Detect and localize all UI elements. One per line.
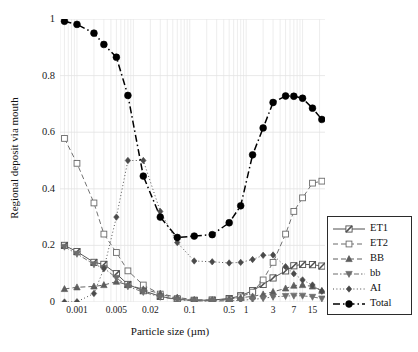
legend-item-BB[interactable]: BB (331, 251, 408, 266)
y-tick-label: 0.8 (42, 70, 55, 81)
legend-label: BB (367, 253, 384, 264)
legend-label: Total (367, 298, 391, 309)
legend: ET1ET2BBbbAITotal (327, 216, 412, 315)
x-tick-label: 15 (308, 306, 318, 316)
legend-marker-bb (331, 267, 367, 281)
series-ET1 (61, 242, 325, 302)
x-tick-label: 0.001 (66, 306, 87, 316)
legend-item-bb[interactable]: bb (331, 266, 408, 281)
series-AI (62, 157, 325, 302)
legend-marker-ET2 (331, 237, 367, 251)
legend-label: AI (367, 283, 381, 294)
y-axis-title: Regional deposit via mouth (8, 58, 20, 258)
legend-label: bb (367, 268, 381, 279)
legend-marker-ET1 (331, 222, 367, 236)
x-tick-label: 0.1 (184, 306, 196, 316)
x-axis-title: Particle size (µm) (0, 325, 340, 337)
legend-label: ET1 (367, 223, 388, 234)
legend-item-AI[interactable]: AI (331, 281, 408, 296)
legend-label: ET2 (367, 238, 388, 249)
legend-item-ET1[interactable]: ET1 (331, 221, 408, 236)
data-series-layer (60, 19, 325, 302)
x-tick-label: 3 (271, 306, 276, 316)
y-tick-label: 1 (50, 14, 55, 25)
legend-marker-Total (331, 297, 367, 311)
y-tick-label: 0.6 (42, 127, 55, 138)
y-tick-label: 0.2 (42, 240, 55, 251)
legend-item-ET2[interactable]: ET2 (331, 236, 408, 251)
x-tick-label: 7 (291, 306, 296, 316)
legend-item-Total[interactable]: Total (331, 296, 408, 311)
chart-figure: 00.20.40.60.81 0.0010.0050.020.10.513715… (0, 0, 418, 352)
x-tick-label: 0.02 (142, 306, 159, 316)
plot-area (60, 19, 325, 302)
series-ET2 (62, 136, 325, 302)
y-tick-label: 0.4 (42, 184, 55, 195)
x-tick-label: 0.005 (106, 306, 127, 316)
series-Total (61, 19, 325, 241)
legend-marker-AI (331, 282, 367, 296)
legend-marker-BB (331, 252, 367, 266)
x-tick-label: 1 (244, 306, 249, 316)
x-tick-label: 0.5 (223, 306, 235, 316)
